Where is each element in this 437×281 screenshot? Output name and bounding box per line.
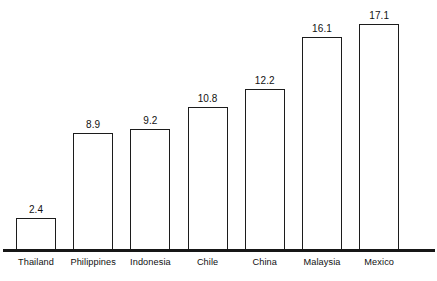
plot-area: 2.48.99.210.812.216.117.1 ThailandPhilip… (0, 0, 437, 281)
bar-value-label: 10.8 (174, 93, 242, 104)
bar-value-label: 12.2 (231, 75, 299, 86)
bar-value-label: 2.4 (2, 204, 70, 215)
bar (73, 133, 113, 250)
category-label: Mexico (341, 257, 417, 267)
bar (245, 89, 285, 250)
bar-value-label: 16.1 (288, 23, 356, 34)
bar (130, 129, 170, 250)
x-axis-baseline (3, 249, 435, 252)
bar (359, 24, 399, 250)
bar (188, 107, 228, 250)
bar (16, 218, 56, 250)
bar-value-label: 17.1 (345, 10, 413, 21)
bar-chart: 2.48.99.210.812.216.117.1 ThailandPhilip… (0, 0, 437, 281)
bar-value-label: 9.2 (116, 115, 184, 126)
bar (302, 37, 342, 250)
